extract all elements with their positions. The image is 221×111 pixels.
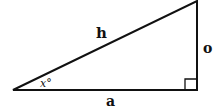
opposite-label: o xyxy=(203,40,212,56)
angle-label: x° xyxy=(40,77,52,90)
hypotenuse-label: h xyxy=(96,24,107,42)
adjacent-label: a xyxy=(106,93,115,109)
triangle-diagram: h o a x° xyxy=(0,0,221,111)
right-angle-marker xyxy=(185,79,197,90)
